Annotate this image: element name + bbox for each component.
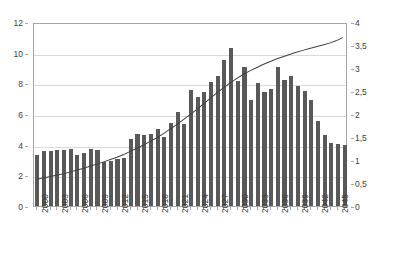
tick-mark [25,23,28,24]
tick-mark [25,54,28,55]
x-axis-tick-label: 2000 [40,194,50,213]
x-axis-tick-label: 2021 [180,194,190,213]
x-axis-tick-mark [217,207,218,210]
x-axis-tick-mark [56,207,57,210]
x-axis-tick-mark [117,207,118,210]
tick-mark [351,138,354,139]
tick-mark [351,207,354,208]
tick-mark [351,184,354,185]
tick-mark [351,46,354,47]
tick-mark [351,23,354,24]
x-axis-tick-label: 2018 [160,194,170,213]
x-axis-tick-mark [96,207,97,210]
x-axis-tick-mark [250,207,251,210]
x-axis-tick-mark [330,207,331,210]
tick-mark [351,161,354,162]
tick-mark [25,207,28,208]
y-axis-right-tick-label: 4 [355,18,360,28]
x-axis-tick-label: 2024 [200,194,210,213]
x-axis-tick-mark [36,207,37,210]
x-axis-tick-label: 2003 [60,194,70,213]
x-axis-tick-label: 2009 [100,194,110,213]
tick-mark [25,115,28,116]
x-axis-tick-mark [197,207,198,210]
y-axis-right-tick-label: 0 [355,202,360,212]
tick-mark [351,69,354,70]
x-axis-tick-label: 2033 [260,194,270,213]
x-axis-tick-mark [177,207,178,210]
x-axis-tick-label: 2006 [80,194,90,213]
x-axis-tick-mark [297,207,298,210]
x-axis-tick-mark [317,207,318,210]
x-axis-tick-mark [150,207,151,210]
x-axis-tick-mark [210,207,211,210]
x-axis-tick-mark [76,207,77,210]
y-axis-right-tick-label: 3,5 [355,41,367,51]
x-axis-tick-label: 2027 [220,194,230,213]
y-axis-left-tick-label: 6 [18,110,23,120]
y-axis-left: 024681012 [0,23,28,207]
x-axis-tick-mark [190,207,191,210]
x-axis-tick-mark [257,207,258,210]
tick-mark [25,84,28,85]
x-axis-tick-mark [130,207,131,210]
tick-mark [351,115,354,116]
y-axis-left-tick-label: 12 [14,18,23,28]
x-axis-tick-label: 2045 [340,194,350,213]
tick-mark [25,146,28,147]
x-axis-tick-mark [310,207,311,210]
line-series [34,24,346,206]
x-axis-tick-label: 2042 [320,194,330,213]
y-axis-left-tick-label: 4 [18,141,23,151]
tick-mark [351,92,354,93]
y-axis-right-tick-label: 0,5 [355,179,367,189]
x-axis-tick-label: 2030 [240,194,250,213]
x-axis-tick-mark [290,207,291,210]
y-axis-left-tick-label: 10 [14,49,23,59]
x-axis-tick-mark [277,207,278,210]
y-axis-right-tick-label: 2,5 [355,87,367,97]
chart-container: 024681012 00,511,522,533,54 200020032006… [0,0,397,256]
x-axis-tick-mark [270,207,271,210]
y-axis-right-tick-label: 1,5 [355,133,367,143]
y-axis-left-tick-label: 2 [18,171,23,181]
y-axis-right-tick-label: 2 [355,110,360,120]
x-axis: 2000200320062009201220152018202120242027… [33,207,347,256]
y-axis-right-tick-label: 1 [355,156,360,166]
tick-mark [25,176,28,177]
x-axis-tick-mark [337,207,338,210]
x-axis-tick-mark [157,207,158,210]
plot-area [33,23,347,207]
y-axis-right: 00,511,522,533,54 [351,23,381,207]
x-axis-tick-label: 2039 [300,194,310,213]
x-axis-tick-mark [137,207,138,210]
trend-line-path [37,38,342,180]
x-axis-tick-label: 2036 [280,194,290,213]
y-axis-right-tick-label: 3 [355,64,360,74]
x-axis-tick-mark [230,207,231,210]
x-axis-tick-label: 2012 [120,194,130,213]
x-axis-tick-mark [237,207,238,210]
y-axis-left-tick-label: 8 [18,79,23,89]
x-axis-tick-label: 2015 [140,194,150,213]
x-axis-tick-mark [170,207,171,210]
y-axis-left-tick-label: 0 [18,202,23,212]
